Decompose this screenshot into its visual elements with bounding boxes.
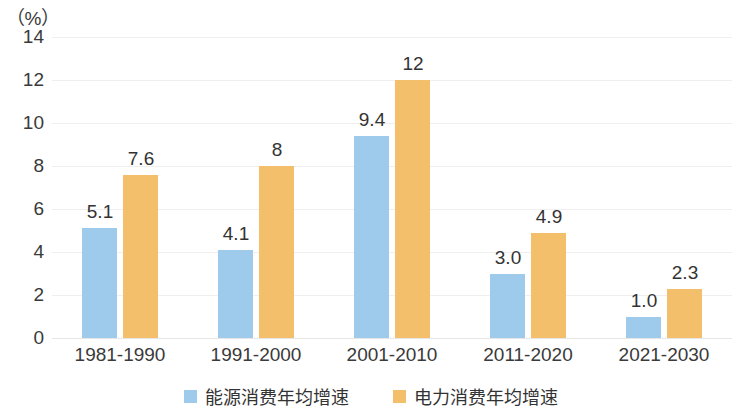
y-axis-tick-label: 8 [4,155,44,177]
bar-group: 3.04.9 [490,37,566,338]
bar-blue[interactable] [218,250,253,338]
legend-swatch-icon [393,390,406,403]
legend-swatch-icon [184,390,197,403]
x-axis-tick-label: 1991-2000 [186,344,326,366]
bar-value-label: 9.4 [342,109,402,131]
x-axis-tick-label: 2001-2010 [322,344,462,366]
x-axis-tick-label: 2011-2020 [458,344,598,366]
legend-item[interactable]: 能源消费年均增速 [184,383,349,409]
bar-chart: （%） 02468101214 5.17.64.189.4123.04.91.0… [0,0,741,412]
x-axis-tick-labels: 1981-19901991-20002001-20102011-20202021… [52,344,732,374]
plot-area: 5.17.64.189.4123.04.91.02.3 [52,37,732,338]
bar-value-label: 12 [383,53,443,75]
bar-group: 9.412 [354,37,430,338]
bar-blue[interactable] [490,274,525,339]
bar-value-label: 7.6 [111,148,171,170]
bar-orange[interactable] [531,233,566,338]
bar-value-label: 4.1 [206,223,266,245]
y-axis-tick-label: 10 [4,112,44,134]
bar-value-label: 4.9 [519,206,579,228]
bar-value-label: 1.0 [614,290,674,312]
bar-group: 1.02.3 [626,37,702,338]
y-axis-tick-label: 0 [4,327,44,349]
legend-label: 能源消费年均增速 [205,383,349,409]
chart-legend: 能源消费年均增速电力消费年均增速 [0,383,741,409]
bar-value-label: 5.1 [70,201,130,223]
legend-label: 电力消费年均增速 [414,383,558,409]
y-axis-tick-label: 12 [4,69,44,91]
x-axis-tick-label: 1981-1990 [50,344,190,366]
bar-orange[interactable] [123,175,158,338]
bar-blue[interactable] [354,136,389,338]
bar-group: 5.17.6 [82,37,158,338]
bar-orange[interactable] [395,80,430,338]
y-axis-tick-label: 14 [4,26,44,48]
y-axis-tick-label: 2 [4,284,44,306]
bar-value-label: 3.0 [478,247,538,269]
gridline [52,338,732,339]
bar-blue[interactable] [82,228,117,338]
y-axis-tick-label: 6 [4,198,44,220]
bar-orange[interactable] [667,289,702,338]
bar-value-label: 8 [247,139,307,161]
x-axis-tick-label: 2021-2030 [594,344,734,366]
legend-item[interactable]: 电力消费年均增速 [393,383,558,409]
bar-value-label: 2.3 [655,262,715,284]
bar-orange[interactable] [259,166,294,338]
y-axis-tick-label: 4 [4,241,44,263]
bar-group: 4.18 [218,37,294,338]
y-axis-tick-labels: 02468101214 [0,37,44,338]
bar-blue[interactable] [626,317,661,339]
